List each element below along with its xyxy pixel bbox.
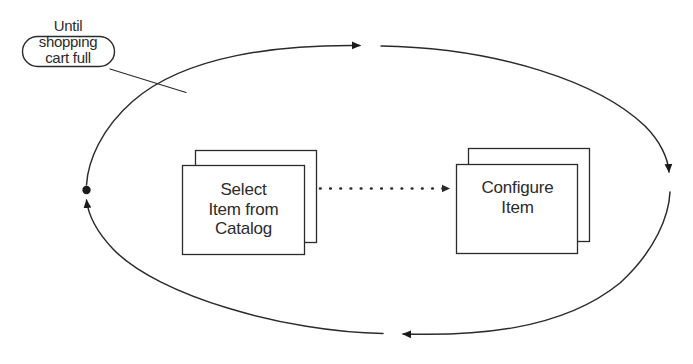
loop-start-ball xyxy=(82,186,90,194)
node-configure-item-shape[interactable] xyxy=(457,149,590,254)
diagram-canvas: Until shopping cart full Select Item fro… xyxy=(0,0,693,364)
guard-label-text: Until shopping cart full xyxy=(14,18,122,66)
node-select-item-shape[interactable] xyxy=(183,151,317,255)
